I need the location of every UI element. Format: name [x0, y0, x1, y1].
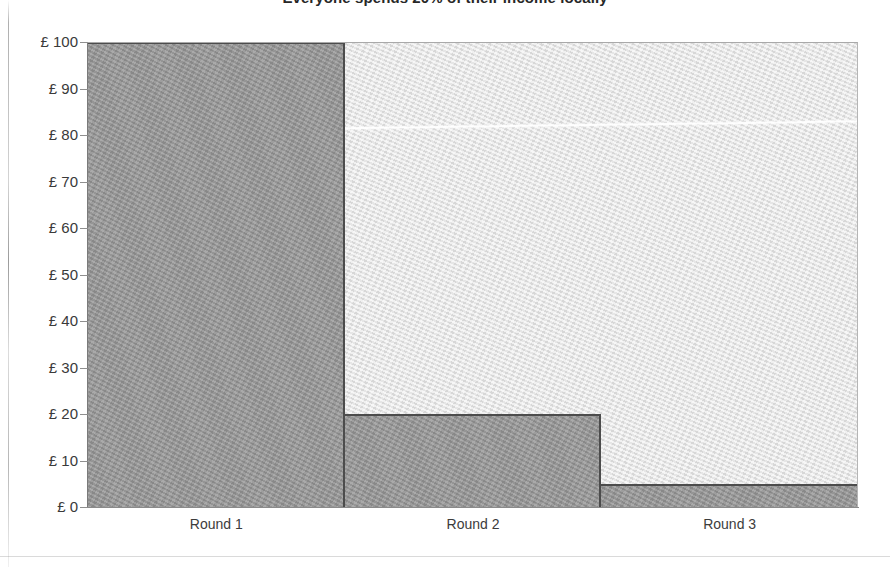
y-axis-tick-label: £ 70 — [6, 173, 78, 190]
y-axis-tick-label: £ 100 — [6, 33, 78, 50]
y-axis-tick — [80, 89, 88, 90]
x-axis-tick-label: Round 1 — [88, 516, 345, 532]
chart-plot-area — [88, 42, 858, 507]
y-axis-tick-label: £ 90 — [6, 80, 78, 97]
chart-title: Everyone spends 20% of their income loca… — [0, 0, 890, 11]
y-axis-tick — [80, 414, 88, 415]
y-axis-tick — [80, 461, 88, 462]
y-axis-tick — [80, 228, 88, 229]
x-axis-tick-label: Round 2 — [345, 516, 602, 532]
page-edge-line-bottom — [0, 556, 890, 557]
y-axis-tick-label: £ 10 — [6, 452, 78, 469]
y-axis-tick-label: £ 0 — [6, 498, 78, 515]
y-axis-tick — [80, 368, 88, 369]
y-axis-tick-label: £ 40 — [6, 312, 78, 329]
bar-round-1 — [88, 42, 345, 507]
x-axis-line — [80, 507, 859, 508]
y-axis-tick — [80, 321, 88, 322]
y-axis-tick — [80, 42, 88, 43]
y-axis-tick-label: £ 20 — [6, 405, 78, 422]
y-axis-tick-label: £ 60 — [6, 219, 78, 236]
y-axis-tick — [80, 275, 88, 276]
y-axis-labels: £ 100£ 90£ 80£ 70£ 60£ 50£ 40£ 30£ 20£ 1… — [0, 0, 78, 567]
y-axis-tick-label: £ 80 — [6, 126, 78, 143]
y-axis-tick — [80, 507, 88, 508]
y-axis-tick-label: £ 50 — [6, 266, 78, 283]
y-axis-tick-label: £ 30 — [6, 359, 78, 376]
x-axis-tick-label: Round 3 — [601, 516, 858, 532]
y-axis-tick — [80, 135, 88, 136]
y-axis-tick — [80, 182, 88, 183]
